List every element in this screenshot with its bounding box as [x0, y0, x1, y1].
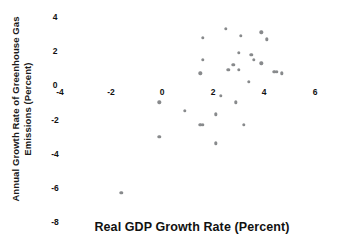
data-point	[242, 123, 245, 126]
data-point	[247, 80, 250, 83]
data-point	[199, 72, 202, 75]
scatter-chart: -4-20246 420-2-4-6-8 Annual Growth Rate …	[0, 0, 340, 242]
y-axis-title-line-1: Annual Growth Rate of Greenhouse Gas	[10, 16, 22, 201]
data-point	[237, 51, 240, 54]
data-point	[214, 142, 217, 145]
data-point	[201, 123, 204, 126]
data-point	[280, 72, 283, 75]
data-point	[201, 36, 204, 39]
x-tick-label: 2	[211, 87, 216, 97]
data-point	[239, 34, 242, 37]
data-point	[158, 101, 161, 104]
y-tick-label: 0	[53, 80, 58, 90]
data-point	[183, 109, 186, 112]
data-point	[219, 94, 222, 97]
y-tick-label: -2	[51, 115, 59, 125]
data-point	[260, 61, 263, 64]
y-tick-label: -6	[51, 183, 59, 193]
y-tick-label: 2	[53, 46, 58, 56]
x-axis-title: Real GDP Growth Rate (Percent)	[44, 220, 340, 234]
data-point	[252, 58, 255, 61]
data-point	[214, 113, 217, 116]
x-tick-label: 4	[262, 87, 267, 97]
data-point	[201, 58, 204, 61]
x-tick-label: -2	[107, 87, 115, 97]
data-point	[265, 38, 268, 41]
y-tick-label: 4	[53, 12, 58, 22]
x-tick-label: 6	[313, 87, 318, 97]
x-tick-label: 0	[160, 87, 165, 97]
data-point	[224, 27, 227, 30]
data-point	[227, 68, 230, 71]
data-point	[119, 191, 122, 194]
plot-area: -4-20246 420-2-4-6-8	[0, 0, 340, 218]
data-point	[234, 101, 237, 104]
data-point	[250, 53, 253, 56]
y-axis-title: Annual Growth Rate of Greenhouse Gas Emi…	[0, 0, 44, 218]
data-point	[158, 135, 161, 138]
data-point	[275, 70, 278, 73]
data-point	[237, 68, 240, 71]
y-tick-label: -4	[51, 149, 59, 159]
data-point	[260, 31, 263, 34]
data-point	[232, 63, 235, 66]
y-axis-title-line-2: Emissions (Percent)	[22, 16, 34, 201]
